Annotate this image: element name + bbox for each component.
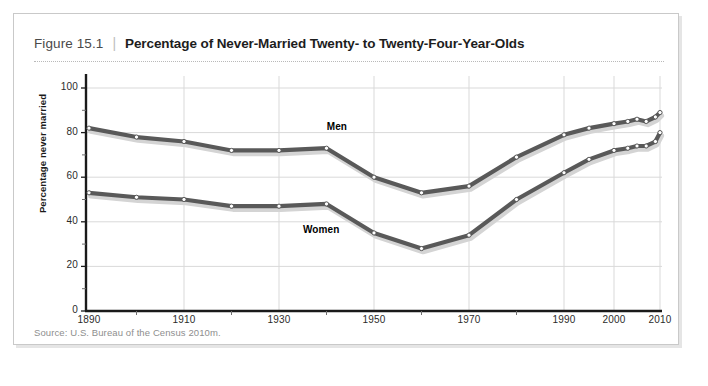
data-point-marker — [626, 146, 630, 150]
data-point-marker — [134, 195, 138, 199]
data-point-marker — [635, 117, 639, 121]
data-point-marker — [626, 119, 630, 123]
y-axis-tick-label: 60 — [48, 170, 78, 181]
data-point-marker — [277, 204, 281, 208]
data-point-marker — [644, 144, 648, 148]
data-point-marker — [467, 233, 471, 237]
data-point-marker — [277, 148, 281, 152]
x-axis-tick-label: 2000 — [591, 314, 637, 325]
data-point-marker — [587, 126, 591, 130]
data-point-marker — [229, 204, 233, 208]
x-axis-tick-label: 1990 — [541, 314, 587, 325]
line-chart-svg — [14, 14, 680, 346]
x-axis-tick-label: 1930 — [256, 314, 302, 325]
x-axis-tick-label: 1910 — [161, 314, 207, 325]
data-point-marker — [419, 246, 423, 250]
y-axis-tick-label: 40 — [48, 215, 78, 226]
series-shadow-men — [91, 116, 662, 196]
data-point-marker — [87, 191, 91, 195]
x-axis-tick-label: 1950 — [351, 314, 397, 325]
data-point-marker — [562, 171, 566, 175]
data-point-marker — [644, 119, 648, 123]
data-point-marker — [134, 135, 138, 139]
data-point-marker — [467, 184, 471, 188]
x-axis-tick-label: 1970 — [446, 314, 492, 325]
x-axis-tick-label: 2010 — [637, 314, 683, 325]
data-point-marker — [635, 144, 639, 148]
series-annotation-women: Women — [303, 224, 339, 235]
data-point-marker — [562, 133, 566, 137]
data-point-marker — [514, 197, 518, 201]
data-point-marker — [658, 131, 662, 135]
figure-card: Figure 15.1 | Percentage of Never-Marrie… — [13, 13, 679, 345]
data-point-marker — [612, 122, 616, 126]
data-point-marker — [372, 175, 376, 179]
y-axis-tick-label: 80 — [48, 126, 78, 137]
data-point-marker — [182, 139, 186, 143]
data-point-marker — [324, 146, 328, 150]
y-axis-tick-label: 20 — [48, 259, 78, 270]
data-point-marker — [514, 155, 518, 159]
data-point-marker — [182, 197, 186, 201]
x-axis-tick-label: 1890 — [66, 314, 112, 325]
data-point-marker — [653, 139, 657, 143]
data-point-marker — [419, 191, 423, 195]
series-annotation-men: Men — [327, 121, 347, 132]
data-point-marker — [653, 115, 657, 119]
source-note: Source: U.S. Bureau of the Census 2010m. — [34, 327, 221, 338]
data-point-marker — [612, 148, 616, 152]
data-point-marker — [372, 231, 376, 235]
data-point-marker — [658, 110, 662, 114]
chart-plot-area: Percentage never married 020406080100189… — [14, 14, 680, 346]
y-axis-title: Percentage never married — [37, 79, 48, 229]
data-point-marker — [87, 126, 91, 130]
y-axis-tick-label: 100 — [48, 81, 78, 92]
data-point-marker — [587, 157, 591, 161]
data-point-marker — [324, 202, 328, 206]
data-point-marker — [229, 148, 233, 152]
